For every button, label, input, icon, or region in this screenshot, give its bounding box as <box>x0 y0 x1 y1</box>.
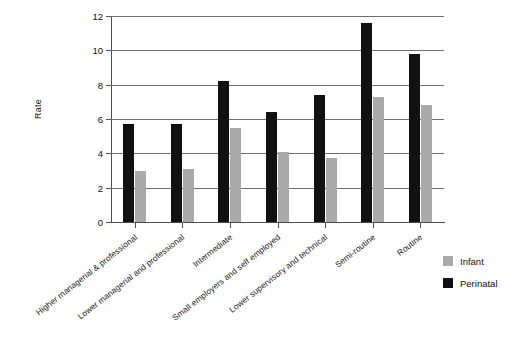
y-tick-mark <box>106 16 111 17</box>
bar-infant <box>230 128 241 222</box>
bar-infant <box>183 169 194 222</box>
legend: Infant Perinatal <box>443 250 498 294</box>
gridline <box>111 85 444 86</box>
bar-perinatal <box>123 124 134 222</box>
y-tick-mark <box>106 119 111 120</box>
legend-label-infant: Infant <box>460 256 484 267</box>
x-tick-mark <box>373 222 374 228</box>
plot-area: 024681012 <box>111 16 444 222</box>
x-tick-mark <box>135 222 136 228</box>
bar-perinatal <box>218 81 229 222</box>
x-tick-mark <box>182 222 183 228</box>
x-axis-label: Routine <box>395 232 424 258</box>
bar-perinatal <box>361 23 372 222</box>
y-axis-title: Rate <box>33 59 43 159</box>
x-axis-label: Intermediate <box>191 232 234 269</box>
x-axis-label: Semi-routine <box>333 232 377 270</box>
bar-infant <box>373 97 384 222</box>
bar-perinatal <box>266 112 277 222</box>
y-tick-label: 2 <box>98 182 103 193</box>
y-tick-mark <box>106 153 111 154</box>
x-axis-label: Lower supervisory and technical <box>227 232 329 315</box>
y-tick-label: 12 <box>92 11 103 22</box>
bar-perinatal <box>409 54 420 222</box>
bar-infant <box>278 152 289 222</box>
x-tick-mark <box>420 222 421 228</box>
bar-infant <box>421 105 432 222</box>
y-tick-mark <box>106 222 111 223</box>
legend-item: Infant <box>443 250 498 272</box>
x-tick-mark <box>325 222 326 228</box>
bar-perinatal <box>314 95 325 222</box>
bar-perinatal <box>171 124 182 222</box>
y-tick-label: 4 <box>98 148 103 159</box>
x-tick-mark <box>278 222 279 228</box>
y-tick-mark <box>106 85 111 86</box>
legend-item: Perinatal <box>443 272 498 294</box>
gridline <box>111 50 444 51</box>
y-tick-label: 8 <box>98 79 103 90</box>
legend-label-perinatal: Perinatal <box>460 278 498 289</box>
y-tick-label: 10 <box>92 45 103 56</box>
y-tick-mark <box>106 188 111 189</box>
legend-swatch-infant <box>443 256 453 266</box>
y-tick-mark <box>106 50 111 51</box>
bar-infant <box>135 171 146 223</box>
bar-infant <box>326 158 337 222</box>
gridline <box>111 16 444 17</box>
y-tick-label: 6 <box>98 114 103 125</box>
x-tick-mark <box>230 222 231 228</box>
y-tick-label: 0 <box>98 217 103 228</box>
legend-swatch-perinatal <box>443 278 453 288</box>
gridline <box>111 119 444 120</box>
bar-chart: Rate 024681012 Higher managerial & profe… <box>0 0 519 362</box>
